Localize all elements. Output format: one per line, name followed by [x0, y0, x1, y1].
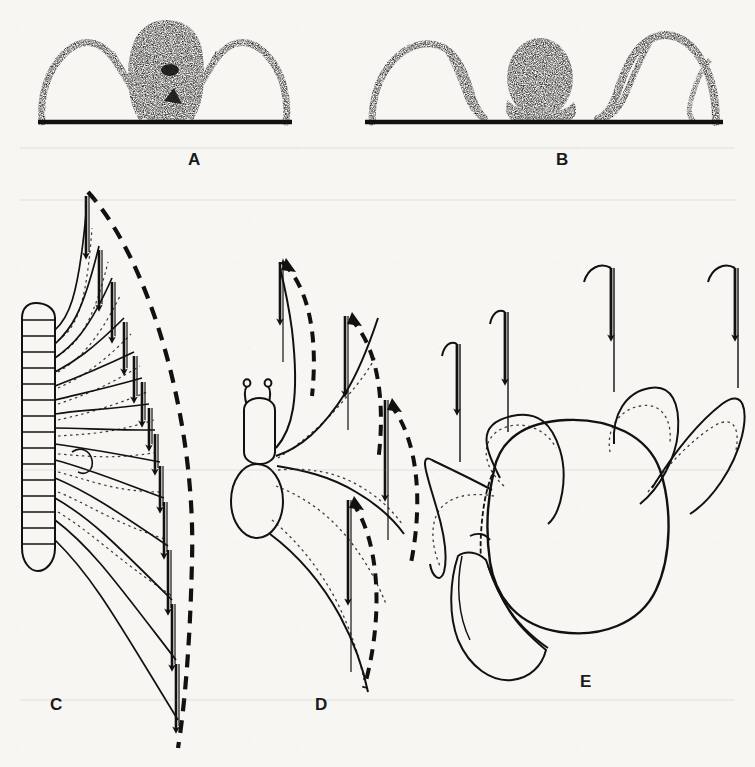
panel-e-stroke-hooks: [442, 266, 735, 356]
panel-c-body: [22, 303, 55, 571]
panel-a: [38, 20, 292, 122]
panel-label-e: E: [580, 672, 592, 692]
panel-e-stroke-arrows: [457, 268, 735, 412]
panel-label-c: C: [50, 695, 63, 715]
panel-label-a: A: [188, 150, 201, 170]
panel-d-dashed-return-loops: [283, 263, 417, 688]
panel-d-stroke-arrow-shadows: [283, 262, 388, 672]
panel-label-d: D: [315, 695, 328, 715]
panel-e: [425, 266, 745, 681]
panel-b-arthropod-silhouette: [372, 35, 716, 122]
panel-e-carapace: [487, 420, 668, 634]
panel-label-b: B: [556, 150, 569, 170]
panel-d-stroke-arrows: [280, 262, 385, 602]
panel-d: [231, 258, 417, 692]
panel-c-stroke-arrows: [86, 196, 176, 730]
arthropod-locomotion-figure: [0, 0, 755, 767]
panel-d-body: [231, 379, 283, 538]
panel-b: [365, 35, 723, 122]
